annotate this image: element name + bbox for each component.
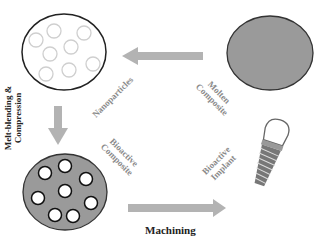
- melt-blending-label: Melt-blending & Compression: [3, 83, 23, 153]
- process-diagram: [0, 0, 319, 243]
- dental-implant-icon: [248, 116, 292, 188]
- molten-composite-circle: [227, 16, 313, 90]
- nanoparticles-circle: [22, 14, 106, 90]
- left-arrow: [122, 47, 203, 65]
- bioactive-composite-circle: [23, 154, 107, 230]
- machining-label: Machining: [145, 224, 196, 236]
- right-arrow: [128, 199, 226, 217]
- down-arrow: [48, 106, 68, 145]
